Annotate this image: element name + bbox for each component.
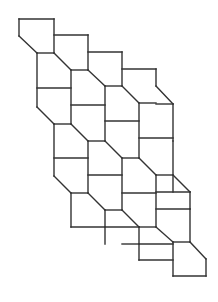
tile-edge xyxy=(156,227,173,242)
tile-edge xyxy=(122,86,139,103)
tile-edge xyxy=(71,124,88,141)
tile-edge xyxy=(156,86,173,104)
tiling-edges xyxy=(19,19,206,276)
tile-edge xyxy=(88,70,105,86)
pentagon-tiling-diagram xyxy=(0,0,218,302)
tile-edge xyxy=(54,53,71,70)
tile-edge xyxy=(190,242,206,259)
tile-edge xyxy=(19,36,37,53)
tile-edge xyxy=(122,210,139,227)
tile-edge xyxy=(139,158,156,175)
tile-edge xyxy=(105,141,122,158)
tile-edge xyxy=(54,176,71,193)
tile-edge xyxy=(88,193,105,210)
tile-edge xyxy=(173,175,190,192)
tile-edge xyxy=(37,107,54,124)
